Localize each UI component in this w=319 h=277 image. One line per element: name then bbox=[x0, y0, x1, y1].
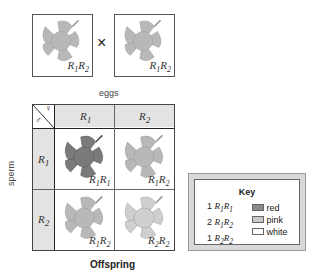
cell-genotype: R2R2 bbox=[148, 234, 169, 249]
col-divider bbox=[114, 105, 115, 250]
key-item-white: 1 R2R2 bbox=[207, 232, 233, 248]
parent-1-genotype: R1R2 bbox=[68, 59, 89, 74]
row-header-1: R1 bbox=[38, 153, 49, 168]
col-header-2: R2 bbox=[139, 110, 150, 125]
eggs-label: eggs bbox=[99, 88, 119, 98]
parent-2-box: R1R2 bbox=[114, 14, 175, 77]
cell-genotype: R1R1 bbox=[89, 173, 110, 188]
cross-symbol: × bbox=[97, 34, 106, 52]
white-swatch bbox=[252, 228, 264, 235]
punnett-square: ♀ ♂ R1 R2 R1 R2 R1R1 R1R2 R1R2 R2R2 bbox=[32, 104, 175, 251]
key-item-pink: 2 R1R2 bbox=[207, 216, 233, 232]
key-label-pink: pink bbox=[267, 215, 284, 225]
row-divider bbox=[33, 189, 174, 190]
pink-swatch bbox=[252, 216, 264, 223]
parent-1-box: R1R2 bbox=[32, 14, 93, 77]
key-box: Key 1 R1R1 2 R1R2 1 R2R2 red pink white bbox=[188, 173, 306, 251]
offspring-label: Offspring bbox=[90, 259, 135, 270]
key-title: Key bbox=[195, 187, 299, 197]
parent-2-genotype: R1R2 bbox=[150, 59, 171, 74]
cell-genotype: R1R2 bbox=[89, 234, 110, 249]
sperm-label: sperm bbox=[6, 161, 16, 186]
row-header-2: R2 bbox=[38, 213, 49, 228]
female-symbol-icon: ♀ bbox=[45, 103, 52, 113]
flower-icon bbox=[119, 17, 167, 65]
key-item-red: 1 R1R1 bbox=[207, 200, 233, 216]
cell-genotype: R1R2 bbox=[148, 173, 169, 188]
flower-icon bbox=[37, 17, 85, 65]
red-swatch bbox=[252, 204, 264, 211]
col-header-1: R1 bbox=[80, 110, 91, 125]
key-label-white: white bbox=[267, 227, 288, 237]
key-label-red: red bbox=[267, 203, 280, 213]
header-divider-vertical bbox=[54, 105, 55, 250]
male-symbol-icon: ♂ bbox=[35, 115, 42, 125]
